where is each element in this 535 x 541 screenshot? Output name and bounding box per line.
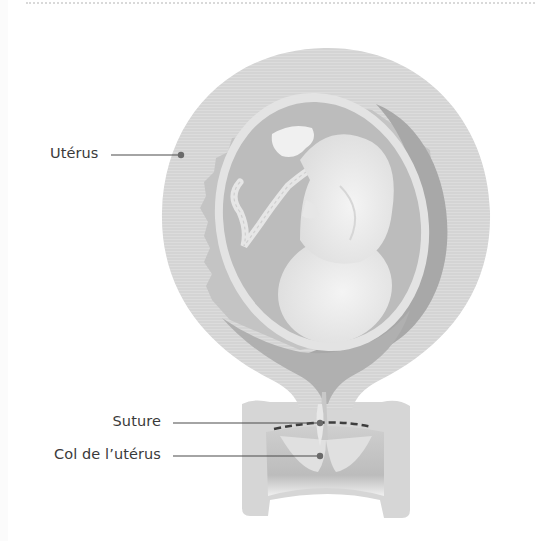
label-suture: Suture (113, 413, 161, 429)
label-cervix: Col de l’utérus (54, 446, 161, 462)
label-uterus: Utérus (50, 145, 99, 161)
